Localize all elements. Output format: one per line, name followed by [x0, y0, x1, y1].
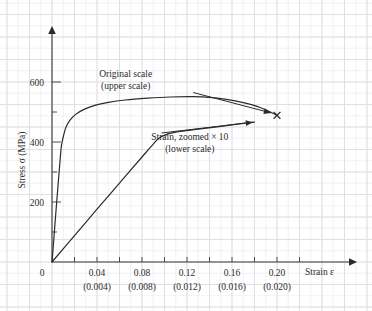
- x-tick-label-lower: (0.016): [218, 282, 246, 293]
- lower-scale-annotation: Strain, zoomed × 10(lower scale): [151, 132, 228, 155]
- x-axis-title: Strain ε: [305, 267, 334, 277]
- y-tick-label: 200: [30, 198, 45, 208]
- x-tick-label-upper: 0.04: [89, 268, 106, 278]
- annotation-line-2: (lower scale): [165, 144, 214, 155]
- y-tick-label: 400: [30, 138, 45, 148]
- x-tick-label-lower: (0.020): [263, 282, 291, 293]
- y-tick-label: 600: [30, 78, 45, 88]
- grid-minor-lines: [0, 0, 372, 311]
- x-tick-label-upper: 0.20: [269, 268, 286, 278]
- chart-svg: 0.040.080.120.160.20(0.004)(0.008)(0.012…: [0, 0, 372, 311]
- stress-strain-chart-figure: 0.040.080.120.160.20(0.004)(0.008)(0.012…: [0, 0, 372, 311]
- x-tick-label-upper: 0.16: [224, 268, 241, 278]
- x-tick-label-lower: (0.012): [173, 282, 201, 293]
- annotation-line-2: (upper scale): [101, 81, 150, 92]
- x-tick-label-lower: (0.008): [128, 282, 156, 293]
- x-tick-label-upper: 0.08: [134, 268, 151, 278]
- grid-major-lines: [0, 0, 372, 311]
- y-axis-tick-labels: 200400600: [30, 78, 45, 208]
- x-tick-label-lower: (0.004): [83, 282, 111, 293]
- upper-scale-annotation: Original scale(upper scale): [99, 69, 152, 92]
- y-axis-title: Stress σ (MPa): [17, 132, 28, 189]
- x-tick-label-upper: 0.12: [179, 268, 196, 278]
- annotation-line-1: Strain, zoomed × 10: [151, 132, 228, 142]
- y-axis-arrow-icon: [48, 26, 56, 34]
- origin-tick-label: 0: [40, 268, 45, 278]
- annotation-line-1: Original scale: [99, 69, 152, 79]
